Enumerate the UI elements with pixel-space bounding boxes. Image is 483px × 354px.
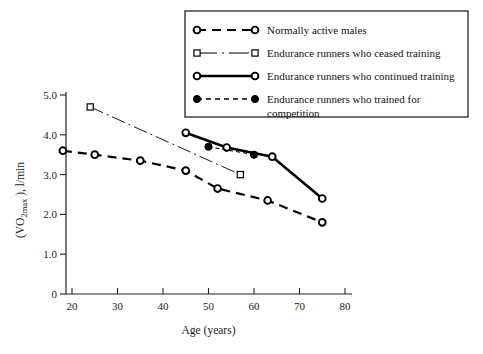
legend-label-continued: competition xyxy=(267,107,320,119)
series-data-point xyxy=(91,151,98,158)
series-data-point xyxy=(205,143,212,150)
y-tick-label: 2.0 xyxy=(43,208,57,220)
legend-label: Endurance runners who trained for xyxy=(267,93,421,105)
series-data-point xyxy=(250,151,257,158)
series-data-point xyxy=(264,197,271,204)
legend-label: Endurance runners who continued training xyxy=(267,70,455,82)
series-data-point xyxy=(214,185,221,192)
series-line xyxy=(63,151,322,223)
y-axis-ticks: 01.02.03.04.05.0 xyxy=(43,89,66,300)
legend-marker-right xyxy=(251,95,258,102)
legend-marker-left xyxy=(193,95,200,102)
series-3 xyxy=(182,129,325,201)
series-data-point xyxy=(319,195,326,202)
series-4 xyxy=(205,143,258,158)
series-data-point xyxy=(237,172,243,178)
legend-marker-right xyxy=(252,73,259,80)
series-data-point xyxy=(182,129,189,136)
x-tick-label: 30 xyxy=(112,300,124,312)
series-data-point xyxy=(87,104,93,110)
y-tick-label: 5.0 xyxy=(43,89,57,101)
y-axis-title: (VO2max ), l/min xyxy=(14,162,29,238)
y-axis-title-text: (VO2max ), l/min xyxy=(14,162,29,238)
y-tick-label: 1.0 xyxy=(43,248,57,260)
x-axis-title: Age (years) xyxy=(182,324,236,337)
series-data-point xyxy=(319,219,326,226)
legend-label: Normally active males xyxy=(267,24,367,36)
x-tick-label: 40 xyxy=(158,300,170,312)
series-data-point xyxy=(269,153,276,160)
legend-marker-left xyxy=(194,50,200,56)
y-tick-label: 0 xyxy=(52,288,58,300)
legend-marker-left xyxy=(194,73,201,80)
vo2max-age-line-chart: 01.02.03.04.05.020304050607080Age (years… xyxy=(0,0,483,354)
chart-page: 01.02.03.04.05.020304050607080Age (years… xyxy=(0,0,483,354)
y-tick-label: 4.0 xyxy=(43,129,57,141)
x-tick-label: 50 xyxy=(203,300,215,312)
series-data-point xyxy=(137,157,144,164)
x-tick-label: 70 xyxy=(294,300,306,312)
legend-marker-right xyxy=(252,50,258,56)
x-tick-label: 60 xyxy=(249,300,261,312)
series-data-point xyxy=(60,147,67,154)
x-axis-ticks: 20304050607080 xyxy=(67,288,352,312)
axes xyxy=(66,92,352,294)
legend: Normally active malesEndurance runners w… xyxy=(185,11,468,119)
series-line xyxy=(186,133,323,199)
plot-series-group xyxy=(60,104,326,226)
legend-marker-right xyxy=(252,27,259,34)
legend-label: Endurance runners who ceased training xyxy=(267,47,441,59)
y-tick-label: 3.0 xyxy=(43,169,57,181)
series-data-point xyxy=(182,167,189,174)
x-tick-label: 80 xyxy=(340,300,352,312)
legend-marker-left xyxy=(194,27,201,34)
series-1 xyxy=(60,147,326,225)
x-tick-label: 20 xyxy=(67,300,79,312)
